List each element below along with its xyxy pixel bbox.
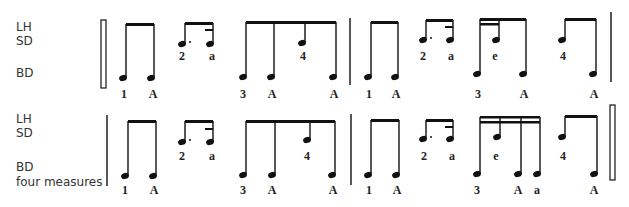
count-label: A	[268, 88, 277, 100]
count-label: 4	[560, 50, 566, 62]
count-label: A	[520, 88, 529, 100]
repeat-bar-icon	[101, 20, 106, 88]
repeat-bar-icon	[610, 105, 615, 180]
count-label: 3	[475, 88, 481, 100]
count-label: a	[209, 150, 215, 162]
count-label: A	[514, 184, 523, 196]
count-label: e	[493, 150, 498, 162]
count-label: a	[534, 184, 540, 196]
count-label: 1	[366, 184, 372, 196]
count-label: 4	[560, 150, 566, 162]
count-label: 2	[421, 150, 427, 162]
count-label: 4	[300, 50, 306, 62]
count-label: A	[590, 88, 599, 100]
count-label: a	[449, 150, 455, 162]
count-label: A	[329, 184, 338, 196]
count-label: 3	[240, 88, 246, 100]
count-label: 3	[240, 184, 246, 196]
count-label: 3	[474, 184, 480, 196]
count-label: 1	[121, 88, 127, 100]
count-label: 1	[366, 88, 372, 100]
count-label: 1	[122, 184, 128, 196]
count-label: A	[393, 184, 402, 196]
count-label: 2	[420, 50, 426, 62]
count-label: 2	[179, 50, 185, 62]
count-label: a	[209, 50, 215, 62]
count-label: A	[590, 184, 599, 196]
count-label: A	[392, 88, 401, 100]
count-label: A	[268, 184, 277, 196]
notation-staff	[0, 0, 629, 207]
count-label: 4	[304, 150, 310, 162]
count-label: e	[492, 50, 497, 62]
count-label: 2	[179, 150, 185, 162]
count-label: A	[330, 88, 339, 100]
count-label: A	[149, 88, 158, 100]
count-label: A	[150, 184, 159, 196]
count-label: a	[448, 50, 454, 62]
